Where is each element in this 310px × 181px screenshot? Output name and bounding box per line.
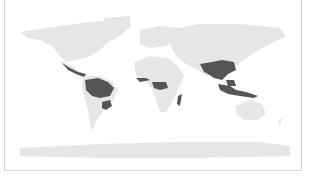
world-map (0, 0, 310, 181)
borneo-highlight (226, 80, 236, 86)
antarctica (20, 142, 290, 158)
indonesia-highlight (218, 84, 258, 98)
australia (236, 100, 266, 120)
new-zealand (278, 118, 282, 126)
madagascar-highlight (177, 94, 182, 106)
